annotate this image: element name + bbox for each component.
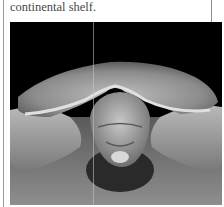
column-border-right bbox=[211, 0, 212, 22]
vertical-guide-line bbox=[93, 22, 94, 205]
article-text: continental shelf. bbox=[10, 0, 96, 14]
turtle-image-icon bbox=[10, 22, 222, 205]
column-border-left bbox=[3, 0, 4, 207]
turtle-photo bbox=[10, 22, 222, 205]
